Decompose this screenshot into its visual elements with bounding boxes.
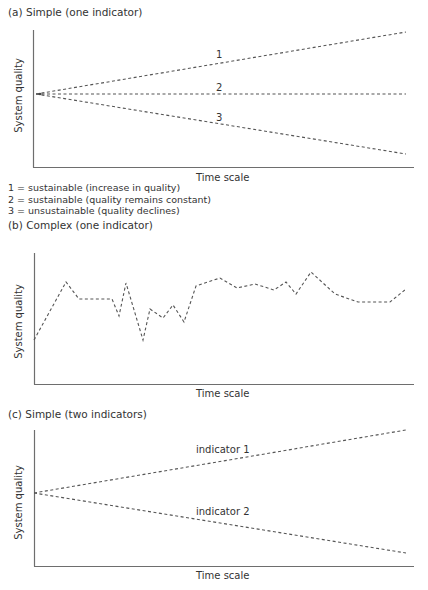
panel-c-lines xyxy=(34,430,406,553)
panel-b-line xyxy=(34,272,406,340)
panel-b-axes xyxy=(34,253,414,385)
panel-c-indicator-1-line xyxy=(34,430,406,493)
panel-a-line-1 xyxy=(36,32,406,94)
panel-c-axes xyxy=(34,430,414,567)
panel-a-origin-point xyxy=(39,93,42,96)
panel-a-lines xyxy=(36,32,406,154)
panel-a-line-3 xyxy=(36,94,406,154)
panel-c-indicator-2-line xyxy=(34,493,406,553)
figure-graphics xyxy=(0,0,428,590)
panel-a-axes xyxy=(33,30,414,168)
